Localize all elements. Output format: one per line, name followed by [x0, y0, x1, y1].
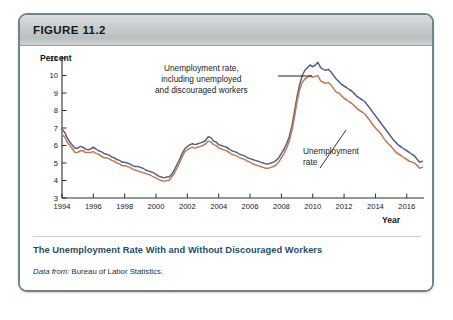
y-axis-title: Percent [40, 53, 72, 63]
annotation-broader-line1: Unemployment rate, [155, 63, 248, 74]
figure-source: Data from: Bureau of Labor Statistics. [33, 267, 425, 276]
svg-text:2004: 2004 [210, 202, 227, 211]
source-text: Bureau of Labor Statistics. [72, 267, 163, 276]
chart-plot-area: 3456789101119941996199820002002200420062… [20, 46, 434, 232]
caption-divider [33, 236, 421, 237]
annotation-unemployment-rate: Unemployment rate [303, 146, 359, 168]
svg-text:2006: 2006 [242, 202, 259, 211]
figure-header: FIGURE 11.2 [20, 15, 432, 46]
x-axis-title: Year [382, 215, 400, 225]
svg-text:8: 8 [54, 106, 58, 115]
annotation-broader-line3: and discouraged workers [155, 85, 248, 96]
svg-text:5: 5 [54, 159, 58, 168]
svg-text:1998: 1998 [116, 202, 133, 211]
annotation-rate-line2: rate [303, 157, 359, 168]
svg-text:2002: 2002 [179, 202, 196, 211]
svg-text:10: 10 [50, 71, 58, 80]
annotation-rate-line1: Unemployment [303, 146, 359, 157]
source-prefix: Data from: [33, 267, 69, 276]
svg-text:7: 7 [54, 124, 58, 133]
annotation-broader-line2: including unemployed [155, 74, 248, 85]
svg-text:4: 4 [54, 176, 58, 185]
figure-body: 3456789101119941996199820002002200420062… [20, 46, 432, 292]
svg-text:2012: 2012 [336, 202, 353, 211]
svg-text:2000: 2000 [148, 202, 165, 211]
svg-text:9: 9 [54, 89, 58, 98]
svg-text:6: 6 [54, 141, 58, 150]
svg-text:2008: 2008 [273, 202, 290, 211]
svg-text:2010: 2010 [304, 202, 321, 211]
figure-card: FIGURE 11.2 3456789101119941996199820002… [18, 13, 434, 292]
svg-text:2014: 2014 [367, 202, 384, 211]
annotation-broader-measure: Unemployment rate, including unemployed … [155, 63, 248, 96]
figure-number-label: FIGURE 11.2 [33, 24, 106, 36]
svg-text:1996: 1996 [85, 202, 102, 211]
figure-caption: The Unemployment Rate With and Without D… [33, 245, 425, 255]
svg-text:2016: 2016 [398, 202, 415, 211]
svg-text:1994: 1994 [54, 202, 71, 211]
